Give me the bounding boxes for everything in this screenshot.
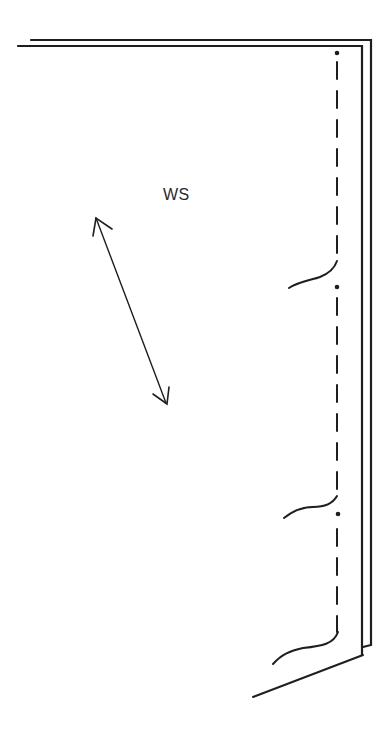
marker-dot-top — [335, 51, 340, 56]
grainline-arrow-shaft — [96, 218, 166, 403]
cut-curve-lower — [273, 632, 338, 664]
cut-curve-middle — [284, 496, 337, 518]
inner-edge-line — [18, 46, 362, 655]
cut-curve-upper — [289, 261, 337, 288]
outer-edge-line — [31, 40, 371, 647]
marker-dot-middle — [335, 285, 340, 290]
marker-dot-lower — [336, 512, 341, 517]
wrong-side-label: WS — [163, 186, 190, 204]
pattern-diagram — [0, 0, 391, 731]
bottom-hem-line — [253, 655, 363, 697]
